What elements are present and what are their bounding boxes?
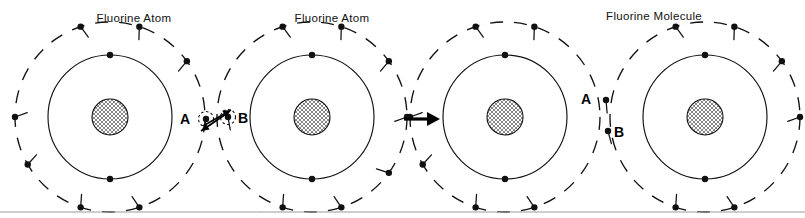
- shared-label-a: A: [581, 91, 591, 107]
- inner-shell-electron: [107, 52, 113, 58]
- outer-shell-electron: [472, 194, 478, 210]
- outer-shell-electron: [788, 114, 803, 122]
- electron-tail: [334, 197, 341, 208]
- electron-dot: [309, 176, 315, 182]
- outer-shell-electron: [12, 113, 27, 121]
- nucleus: [687, 99, 723, 135]
- nucleus: [92, 99, 128, 135]
- outer-shell-electron: [672, 194, 678, 210]
- shared-label-b: B: [614, 124, 624, 140]
- electron-dot: [502, 176, 508, 182]
- outer-shell-electron: [472, 23, 483, 37]
- inner-shell-electron: [309, 52, 315, 58]
- valence-label-a: A: [180, 111, 190, 127]
- inner-shell-electron: [702, 52, 708, 58]
- outer-shell-electron: [381, 58, 393, 71]
- outer-shell-electron: [279, 23, 290, 37]
- electron-dot: [107, 52, 113, 58]
- inner-shell-electron: [502, 176, 508, 182]
- caption-molecule: Fluorine Molecule: [606, 10, 702, 22]
- valence-electron-pair-left: AB: [180, 110, 248, 132]
- nucleus: [294, 99, 330, 135]
- inner-shell-electron: [702, 176, 708, 182]
- electron-tail: [423, 155, 432, 165]
- inner-shell-electron: [107, 176, 113, 182]
- outer-shell-electron: [279, 194, 285, 210]
- electron-dot: [502, 52, 508, 58]
- electron-tail: [676, 27, 684, 38]
- captions-layer: Fluorine AtomFluorine AtomFluorine Molec…: [97, 10, 702, 24]
- inner-shell-electron: [309, 176, 315, 182]
- diagram-canvas: AB AB Fluorine AtomFluorine AtomFluorine…: [0, 0, 805, 218]
- inner-shell-electron: [502, 52, 508, 58]
- outer-shell-electron: [179, 58, 191, 71]
- atoms-layer: [12, 22, 803, 212]
- attraction-arrow-head: [201, 124, 210, 131]
- shared-electron-b: [605, 128, 612, 144]
- outer-shell-electron: [531, 23, 537, 39]
- outer-shell-electron: [376, 169, 392, 176]
- outer-shell-electron: [77, 23, 88, 37]
- fluorine-molecule-diagram: AB AB Fluorine AtomFluorine AtomFluorine…: [0, 0, 805, 218]
- electron-tail: [476, 27, 484, 38]
- atom-bonded-atom-right: [610, 22, 803, 212]
- valence-label-b: B: [238, 110, 248, 126]
- electron-tail: [527, 197, 534, 208]
- electron-dot: [309, 52, 315, 58]
- electron-tail: [774, 61, 782, 71]
- electron-tail: [381, 61, 389, 71]
- electron-tail: [132, 197, 139, 208]
- caption-left-atom: Fluorine Atom: [97, 12, 172, 24]
- electron-tail: [179, 61, 187, 71]
- outer-shell-electron: [774, 58, 786, 71]
- caption-right-atom: Fluorine Atom: [295, 12, 370, 24]
- electron-dot: [107, 176, 113, 182]
- valence-electron-pair-molecule: AB: [581, 91, 624, 144]
- outer-shell-electron: [136, 23, 142, 39]
- nucleus: [487, 99, 523, 135]
- shared-electron-a: [603, 97, 609, 113]
- electron-dot: [702, 176, 708, 182]
- electron-tail: [81, 27, 89, 38]
- electron-tail: [727, 197, 734, 208]
- electron-tail: [28, 155, 37, 165]
- outer-shell-electron: [731, 23, 737, 39]
- reaction-arrow-head: [427, 112, 440, 126]
- atom-free-atom-left: [12, 22, 205, 212]
- electron-dot: [702, 52, 708, 58]
- outer-shell-electron: [77, 194, 83, 210]
- electron-tail: [283, 27, 291, 38]
- outer-shell-electron: [672, 23, 683, 37]
- outer-shell-electron: [338, 23, 344, 39]
